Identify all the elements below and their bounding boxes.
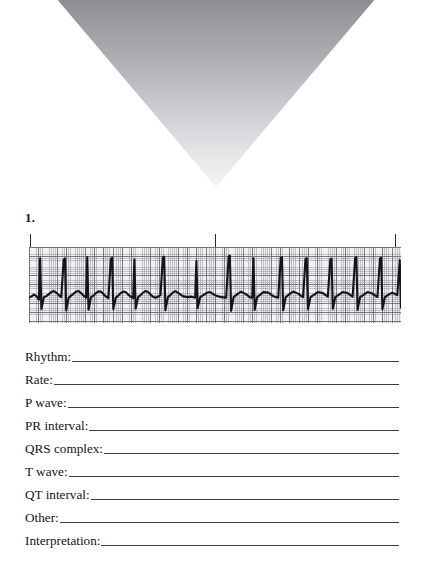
form-row-pr-interval[interactable]: PR interval:: [25, 410, 399, 433]
answer-line-qt-interval[interactable]: [91, 499, 399, 500]
answer-line-rate[interactable]: [54, 384, 399, 385]
answer-line-t-wave[interactable]: [69, 476, 399, 477]
label-qrs-complex: QRS complex:: [25, 441, 104, 456]
form-row-other[interactable]: Other:: [25, 502, 399, 525]
answer-line-qrs-complex[interactable]: [104, 453, 399, 454]
form-row-qrs-complex[interactable]: QRS complex:: [25, 433, 399, 456]
interval-tick-3s: [215, 234, 216, 247]
ecg-rhythm-strip: [29, 234, 401, 324]
label-t-wave: T wave:: [25, 464, 69, 479]
answer-line-interpretation[interactable]: [101, 545, 399, 546]
answer-line-pr-interval[interactable]: [89, 430, 399, 431]
ecg-interval-tick-marks: [29, 234, 401, 248]
scan-shadow-triangle: [0, 0, 440, 190]
form-row-rate[interactable]: Rate:: [25, 364, 399, 387]
form-row-rhythm[interactable]: Rhythm:: [25, 341, 399, 364]
question-number: 1.: [25, 211, 35, 225]
label-qt-interval: QT interval:: [25, 487, 91, 502]
label-rhythm: Rhythm:: [25, 349, 72, 364]
form-row-p-wave[interactable]: P wave:: [25, 387, 399, 410]
interval-tick-6s: [395, 234, 396, 247]
ecg-waveform-trace: [29, 247, 401, 323]
answer-line-other[interactable]: [60, 522, 399, 523]
label-interpretation: Interpretation:: [25, 533, 101, 548]
form-row-t-wave[interactable]: T wave:: [25, 456, 399, 479]
answer-line-p-wave[interactable]: [68, 407, 399, 408]
label-rate: Rate:: [25, 372, 54, 387]
answer-line-rhythm[interactable]: [72, 361, 399, 362]
label-p-wave: P wave:: [25, 395, 68, 410]
ecg-interpretation-form: Rhythm: Rate: P wave: PR interval: QRS c…: [25, 341, 399, 548]
interval-tick-0s: [30, 234, 31, 247]
form-row-qt-interval[interactable]: QT interval:: [25, 479, 399, 502]
label-other: Other:: [25, 510, 60, 525]
label-pr-interval: PR interval:: [25, 418, 89, 433]
form-row-interpretation[interactable]: Interpretation:: [25, 525, 399, 548]
ecg-graph-paper: [29, 247, 401, 323]
